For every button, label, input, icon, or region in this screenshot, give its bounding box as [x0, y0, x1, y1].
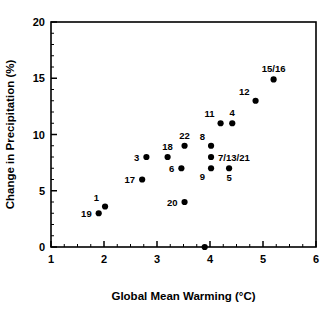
y-tick-label: 15 [33, 72, 45, 84]
data-point-marker [181, 199, 187, 205]
data-point-series [96, 76, 277, 250]
data-point-label: 6 [169, 163, 174, 174]
data-point-labels: 191173186202287/13/21951141215/16 [81, 63, 285, 218]
data-point-marker [181, 143, 187, 149]
x-tick-label: 2 [101, 253, 107, 265]
data-point-marker [178, 165, 184, 171]
data-point-label: 4 [230, 107, 236, 118]
data-point-label: 3 [134, 152, 139, 163]
data-point-label: 5 [226, 172, 232, 183]
y-tick-label: 0 [39, 241, 45, 253]
data-point-marker [226, 165, 232, 171]
data-point-marker [218, 120, 224, 126]
data-point-label: 19 [81, 208, 92, 219]
data-point-label: 15/16 [262, 63, 286, 74]
data-point-marker [102, 203, 108, 209]
y-tick-label: 20 [33, 16, 45, 28]
data-point-marker [208, 143, 214, 149]
x-axis-title: Global Mean Warming (°C) [111, 290, 255, 302]
data-point-marker [271, 76, 277, 82]
data-point-label: 17 [125, 174, 136, 185]
data-point-marker [143, 154, 149, 160]
x-tick-label: 5 [260, 253, 266, 265]
y-axis-title: Change in Precipitation (%) [4, 60, 16, 210]
chart-canvas: 123456 05101520 191173186202287/13/21951… [0, 0, 329, 316]
scatter-plot-figure: 123456 05101520 191173186202287/13/21951… [0, 0, 329, 316]
data-point-marker [252, 98, 258, 104]
x-tick-label: 3 [154, 253, 160, 265]
data-point-label: 18 [162, 141, 173, 152]
data-point-marker [229, 120, 235, 126]
data-point-marker [96, 210, 102, 216]
x-tick-label: 4 [207, 253, 214, 265]
data-point-label: 7/13/21 [218, 152, 250, 163]
data-point-label: 9 [200, 171, 205, 182]
data-point-marker [208, 154, 214, 160]
data-point-marker [208, 165, 214, 171]
x-tick-label: 1 [48, 253, 54, 265]
data-point-marker [139, 176, 145, 182]
y-axis-tick-labels: 05101520 [33, 16, 45, 253]
data-point-marker [165, 154, 171, 160]
data-point-label: 8 [200, 131, 205, 142]
data-point-label: 22 [179, 130, 190, 141]
data-point-label: 11 [205, 108, 216, 119]
x-axis-tick-labels: 123456 [48, 253, 319, 265]
data-point-label: 1 [94, 192, 100, 203]
data-point-label: 20 [167, 197, 178, 208]
data-point-label: 12 [239, 86, 250, 97]
data-point-marker [202, 244, 208, 250]
y-tick-label: 10 [33, 129, 45, 141]
x-tick-label: 6 [313, 253, 319, 265]
y-tick-label: 5 [39, 185, 45, 197]
